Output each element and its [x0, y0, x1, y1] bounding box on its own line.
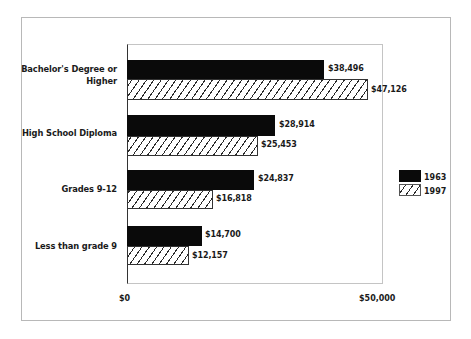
bar-bachelors-1997 [127, 79, 368, 100]
category-label-grades-9-12: Grades 9-12 [61, 183, 117, 195]
value-label: $12,157 [192, 251, 228, 260]
value-label: $47,126 [371, 85, 407, 94]
legend-label-1997: 1997 [424, 187, 446, 196]
bar-less-than-9-1997 [127, 246, 189, 265]
bar-less-than-9-1963 [127, 226, 202, 246]
value-label: $28,914 [279, 120, 315, 129]
bar-grades-9-12-1963 [127, 170, 254, 190]
legend-swatch-1963 [399, 170, 421, 182]
category-label-line: Higher [21, 75, 117, 87]
category-label-line: Bachelor's Degree or [21, 63, 117, 75]
legend-label-1963: 1963 [424, 173, 446, 182]
value-label: $14,700 [205, 230, 241, 239]
category-label-high-school: High School Diploma [22, 127, 117, 139]
x-tick-max: $50,000 [359, 294, 395, 303]
bar-grades-9-12-1997 [127, 190, 213, 209]
bar-high-school-1997 [127, 136, 258, 156]
bar-bachelors-1963 [127, 60, 324, 79]
x-tick-min: $0 [119, 294, 130, 303]
value-label: $16,818 [216, 194, 252, 203]
value-label: $24,837 [258, 174, 294, 183]
category-label-bachelors: Bachelor's Degree or Higher [21, 63, 117, 87]
category-label-less-than-9: Less than grade 9 [35, 240, 117, 252]
value-label: $38,496 [328, 64, 364, 73]
value-label: $25,453 [261, 140, 297, 149]
bar-high-school-1963 [127, 115, 275, 136]
legend-swatch-1997 [399, 184, 421, 196]
